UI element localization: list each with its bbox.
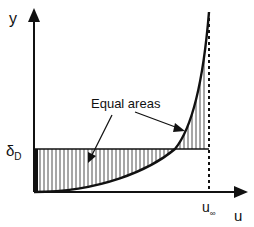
u-inf-label: u∞: [202, 199, 216, 218]
u-inf-symbol: u: [202, 199, 210, 215]
u-inf-subscript: ∞: [210, 209, 216, 218]
delta-subscript: D: [14, 151, 21, 162]
y-axis-arrow-icon: [28, 8, 40, 22]
delta-d-label: δD: [6, 142, 22, 162]
annotation-arrow-right: [135, 112, 178, 128]
y-axis-label: y: [9, 10, 17, 28]
x-axis-arrow-icon: [234, 186, 248, 198]
equal-areas-label: Equal areas: [91, 96, 160, 111]
x-axis-label: u: [234, 207, 242, 224]
diagram-canvas: [0, 0, 254, 227]
annotation-arrowhead-right-icon: [173, 123, 185, 132]
